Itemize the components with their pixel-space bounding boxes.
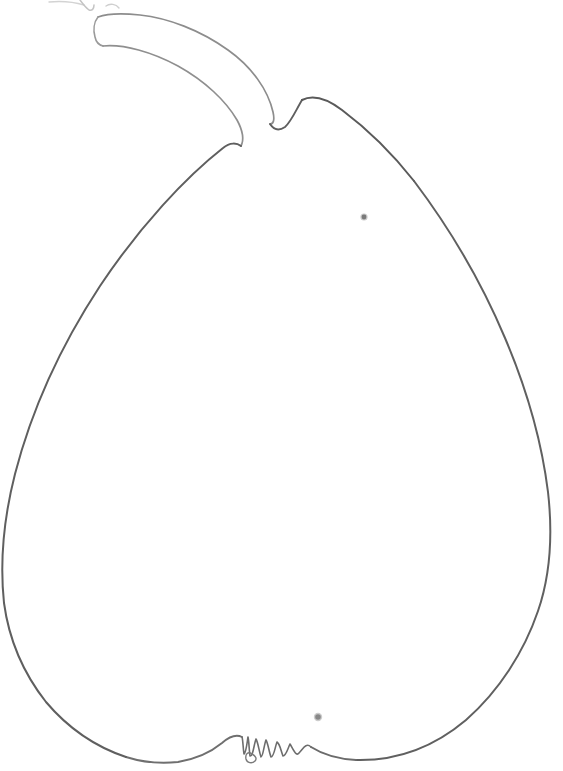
drawing-canvas: Pear outline pencil sketch Hand-drawn co… [0,0,563,771]
graphite-dot-upper [362,215,367,220]
paper-background [0,0,563,771]
pear-line-drawing [0,0,563,771]
graphite-dot-lower [315,714,321,720]
